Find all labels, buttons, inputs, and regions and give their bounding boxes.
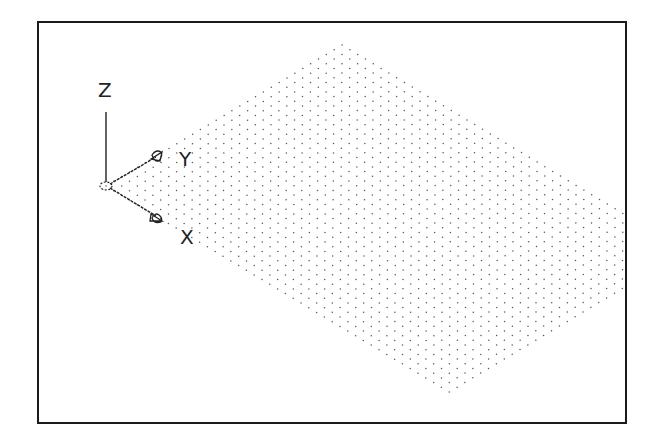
z-axis-label: Z [98, 80, 112, 100]
x-axis-label: X [180, 227, 194, 247]
drawing-viewport[interactable]: Z Y X [37, 21, 627, 424]
y-axis-label: Y [179, 149, 191, 169]
grid-dots [105, 44, 623, 392]
isometric-grid [39, 23, 625, 422]
